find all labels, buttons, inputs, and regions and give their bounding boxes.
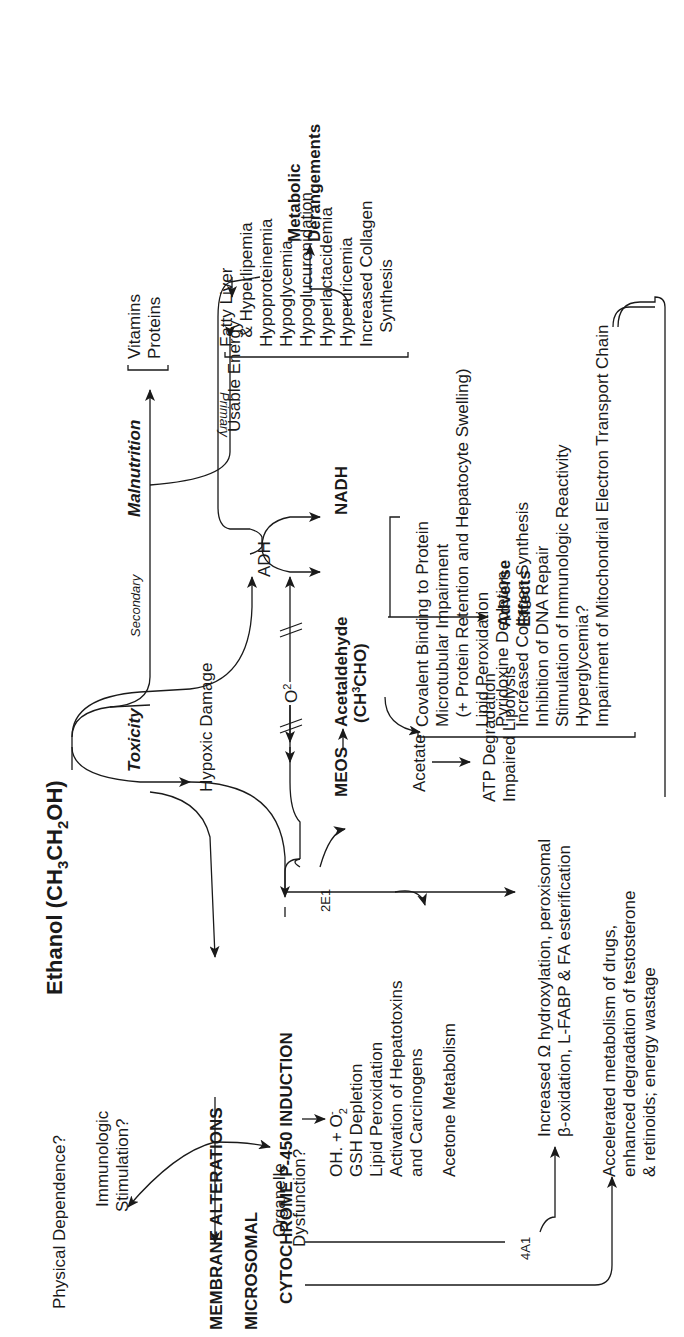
malnutrition-bracket [128,365,168,370]
toxicity-to-cytochrome-arrow [190,782,285,897]
membrane-alterations-label: MEMBRANE ALTERATIONS [207,1107,226,1330]
svg-text:Lipid Peroxidation: Lipid Peroxidation [367,1042,386,1177]
svg-text:(+ Protein Retention and Hepat: (+ Protein Retention and Hepatocyte Swel… [453,368,472,727]
metabolic-items-list: Fatty Liver & Hyperlipemia Hypoproteinem… [217,192,396,347]
svg-text:& Hyperlipemia: & Hyperlipemia [237,222,256,347]
accelerated-text: Accelerated metabolism of drugs, [600,925,619,1177]
o2-break-mark [280,623,302,637]
adverse-items-list: Covalent Binding to Protein Microtubular… [413,324,612,727]
malnutrition-item: Proteins [145,297,164,359]
secondary-label: Secondary [128,573,143,637]
svg-text:OH. + O2-: OH. + O2- [325,1108,349,1177]
2e1-to-meos-arrow [320,829,345,867]
malnutrition-label: Malnutrition [125,420,144,517]
svg-text:Stimulation of Immunologic Rea: Stimulation of Immunologic Reactivity [553,444,572,727]
hypoxic-break-mark [280,719,302,733]
svg-text:Lipid Peroxidation: Lipid Peroxidation [473,592,492,727]
svg-text:Hyperlactacidemia: Hyperlactacidemia [317,207,336,347]
cyp-4a1-label: 4A1 [518,1237,533,1260]
svg-text:Hypoproteinemia: Hypoproteinemia [257,218,276,347]
2e1-to-acetone-arrow [395,891,425,905]
nadh-label: NADH [332,466,351,515]
mitochondrial-return-line [618,297,665,797]
toxicity-to-membrane-arrow [150,792,215,957]
acetaldehyde-formula: (CH3CHO) [350,643,370,723]
hydroxylation-text: Increased Ω hydroxylation, peroxisomal [535,839,554,1137]
accelerated-text: enhanced degradation of testosterone [620,891,639,1177]
o2-label: O2 [281,684,301,703]
acetone-metabolism-label: Acetone Metabolism [440,1023,459,1177]
malnutrition-item: Vitamins [125,294,144,359]
acetate-label: Acetate [410,734,429,792]
svg-text:Pyridoxine Depletion: Pyridoxine Depletion [493,571,512,727]
immunologic-label: Immunologic [93,1110,112,1207]
immunologic-label: Stimulation? [113,1118,132,1212]
2e1-stem [285,859,300,892]
2e1-o2-join [295,859,300,867]
svg-text:Increased Collagen Synthesis: Increased Collagen Synthesis [513,502,532,727]
svg-text:Microtubular Impairment: Microtubular Impairment [433,543,452,727]
svg-text:Hypoglucuronidation: Hypoglucuronidation [297,192,316,347]
svg-text:Hypoglycemia: Hypoglycemia [277,240,296,347]
svg-text:Fatty Liver: Fatty Liver [217,267,236,347]
meos-label: MEOS [332,747,351,797]
metabolic-bracket [225,352,408,357]
cytochrome-effects-list: OH. + O2- GSH Depletion Lipid Peroxidati… [325,980,426,1177]
adh-label: ADH [255,541,274,577]
physical-dependence-label: Physical Dependence? [50,1135,69,1309]
svg-text:Hyperglycemia?: Hyperglycemia? [573,605,592,727]
cytochrome-label: CYTOCHROME P-450 INDUCTION [277,1032,296,1304]
svg-text:Covalent Binding to Protein: Covalent Binding to Protein [413,521,432,727]
diagram-title: Ethanol (CH3CH2OH) [42,780,71,995]
svg-text:Hyperuricemia: Hyperuricemia [337,237,356,347]
svg-text:Impairment of Mitochondrial El: Impairment of Mitochondrial Electron Tra… [593,324,612,727]
immunologic-arrow [128,1142,215,1207]
toxicity-label: Toxicity [125,707,144,772]
accelerated-text: & retinoids; energy wastage [640,967,659,1177]
svg-text:Increased Collagen: Increased Collagen [357,201,376,347]
acetaldehyde-adverse-line [390,517,400,617]
svg-text:and Carcinogens: and Carcinogens [407,1048,426,1177]
hypoxic-damage-label: Hypoxic Damage [197,663,216,792]
svg-text:Synthesis: Synthesis [377,259,396,347]
svg-text:Inhibition of DNA Repair: Inhibition of DNA Repair [533,545,552,727]
svg-text:GSH Depletion: GSH Depletion [347,1064,366,1177]
ethanol-metabolism-diagram: Ethanol (CH3CH2OH) Secondary Malnutritio… [0,0,684,1337]
acetaldehyde-label: Acetaldehyde [332,616,351,727]
microsomal-label: MICROSOMAL [242,1212,261,1330]
adverse-bracket [418,732,635,737]
hydroxylation-text: β-oxidation, L-FABP & FA esterification [555,845,574,1137]
4a1-to-hydroxylation-arrow [540,1147,555,1232]
accelerated-metabolism-arrow [305,1177,612,1285]
svg-text:Activation of Hepatotoxins: Activation of Hepatotoxins [387,980,406,1177]
